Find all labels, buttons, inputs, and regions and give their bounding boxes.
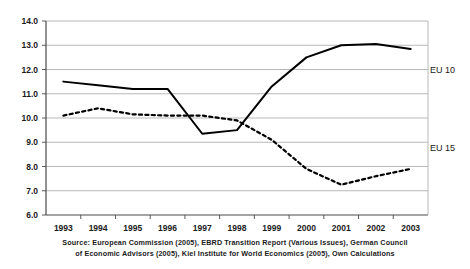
source-line-1: Source: European Commission (2005), EBRD… bbox=[0, 238, 470, 249]
x-axis-tick-label: 2003 bbox=[401, 223, 420, 233]
series-label-eu-15: EU 15 bbox=[430, 143, 455, 153]
y-axis-tick-label: 11.0 bbox=[22, 89, 38, 99]
x-axis-tick-label: 1999 bbox=[262, 223, 281, 233]
x-axis-tick-label: 1997 bbox=[193, 223, 212, 233]
x-axis-tick-label: 1996 bbox=[158, 223, 177, 233]
y-axis-tick-label: 10.0 bbox=[21, 113, 38, 123]
x-axis-tick-label: 1994 bbox=[89, 223, 108, 233]
x-axis-tick-label: 1993 bbox=[54, 223, 73, 233]
series-label-eu-10: EU 10 bbox=[430, 65, 455, 75]
source-line-2: of Economic Advisors (2005), Kiel Instit… bbox=[0, 249, 470, 260]
y-axis-tick-label: 13.0 bbox=[21, 40, 38, 50]
x-axis-tick-label: 1998 bbox=[228, 223, 247, 233]
y-axis-tick-label: 14.0 bbox=[21, 16, 38, 26]
y-axis-tick-label: 12.0 bbox=[21, 65, 38, 75]
y-axis-tick-label: 6.0 bbox=[26, 210, 38, 220]
y-axis-tick-label: 9.0 bbox=[26, 137, 38, 147]
line-chart-plot: 6.07.08.09.010.011.012.013.014.019931994… bbox=[0, 0, 470, 269]
x-axis-tick-label: 2002 bbox=[366, 223, 385, 233]
y-axis-tick-label: 7.0 bbox=[26, 186, 38, 196]
source-note: Source: European Commission (2005), EBRD… bbox=[0, 238, 470, 259]
y-axis-tick-label: 8.0 bbox=[26, 162, 38, 172]
x-axis-tick-label: 2000 bbox=[297, 223, 316, 233]
x-axis-tick-label: 1995 bbox=[123, 223, 142, 233]
chart-figure: 6.07.08.09.010.011.012.013.014.019931994… bbox=[0, 0, 470, 269]
x-axis-tick-label: 2001 bbox=[332, 223, 351, 233]
